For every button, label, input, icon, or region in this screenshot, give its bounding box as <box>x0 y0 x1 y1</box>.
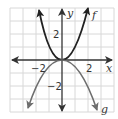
y-tick-neg2: −2 <box>47 81 62 92</box>
y-tick-2: 2 <box>53 29 59 40</box>
x-tick-2: 2 <box>86 63 92 74</box>
f-label: f <box>91 9 98 22</box>
x-tick-neg2: −2 <box>31 63 46 74</box>
y-axis-label: y <box>66 7 74 20</box>
g-label: g <box>101 103 108 116</box>
function-graph: y f x g 2 −2 −2 2 <box>0 0 118 119</box>
x-axis-label: x <box>106 62 113 75</box>
